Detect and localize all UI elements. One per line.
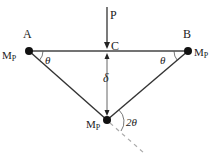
label-c: C: [111, 39, 119, 53]
label-theta-left: θ: [45, 54, 51, 66]
label-theta-right: θ: [160, 54, 166, 66]
angle-arc-theta-left: [40, 51, 44, 60]
plastic-hinge-diagram: A B C P δ θ θ 2θ MP MP MP: [0, 0, 218, 159]
angle-arc-theta-right: [174, 51, 177, 60]
label-mp-b: MP: [194, 46, 209, 60]
label-two-theta: 2θ: [126, 116, 138, 128]
label-p: P: [110, 8, 117, 22]
arrowhead-down-icon: [104, 42, 110, 49]
bar-ad: [29, 51, 107, 120]
label-b: B: [183, 27, 191, 41]
hinge-node-a: [25, 47, 33, 55]
label-mp-bottom: MP: [86, 118, 101, 132]
label-mp-a: MP: [2, 49, 17, 63]
hinge-node-bottom: [103, 116, 111, 124]
angle-arc-two-theta: [119, 110, 124, 131]
label-a: A: [23, 27, 32, 41]
arrowhead-down-icon: [105, 110, 110, 116]
arrowhead-up-icon: [105, 53, 110, 59]
bar-bd: [107, 51, 188, 120]
diagram-svg: A B C P δ θ θ 2θ MP MP MP: [0, 0, 218, 159]
label-delta: δ: [103, 71, 109, 85]
hinge-node-b: [184, 47, 192, 55]
